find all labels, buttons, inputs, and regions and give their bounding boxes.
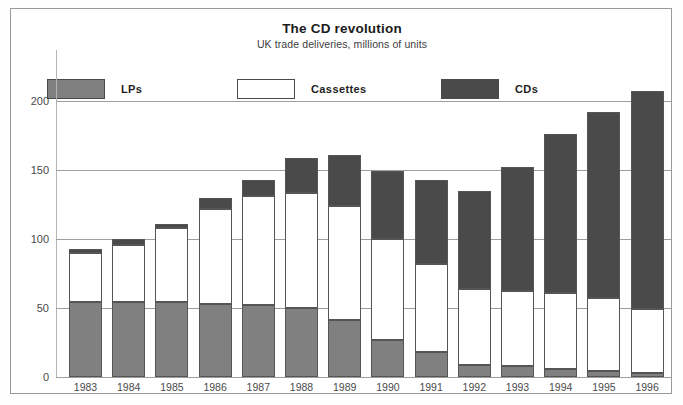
bar-1983[interactable] — [69, 249, 102, 377]
bar-segment-lps-1996[interactable] — [631, 373, 664, 377]
bar-segment-cds-1987[interactable] — [242, 180, 275, 197]
bar-segment-cds-1985[interactable] — [155, 224, 188, 228]
bar-segment-cds-1995[interactable] — [587, 112, 620, 298]
x-tick-label-1995: 1995 — [582, 381, 625, 393]
gridline-150 — [56, 170, 671, 171]
bar-segment-cds-1992[interactable] — [458, 191, 491, 289]
chart-subtitle: UK trade deliveries, millions of units — [11, 38, 673, 50]
y-tick-label-150: 150 — [31, 164, 49, 176]
bar-segment-cds-1996[interactable] — [631, 91, 664, 309]
bar-segment-cds-1986[interactable] — [199, 198, 232, 209]
bar-segment-lps-1990[interactable] — [371, 340, 404, 377]
x-tick-label-1989: 1989 — [323, 381, 366, 393]
bar-1990[interactable] — [371, 171, 404, 377]
x-tick-label-1991: 1991 — [410, 381, 453, 393]
bar-segment-cds-1990[interactable] — [371, 171, 404, 239]
bar-segment-lps-1987[interactable] — [242, 305, 275, 377]
x-tick-label-1984: 1984 — [107, 381, 150, 393]
bar-segment-cassettes-1983[interactable] — [69, 253, 102, 303]
bar-segment-cds-1994[interactable] — [544, 134, 577, 293]
bar-segment-cassettes-1985[interactable] — [155, 228, 188, 303]
bar-1984[interactable] — [112, 239, 145, 377]
chart-frame: The CD revolution UK trade deliveries, m… — [10, 8, 672, 394]
bar-segment-cassettes-1993[interactable] — [501, 291, 534, 366]
x-tick-label-1994: 1994 — [539, 381, 582, 393]
bar-segment-cassettes-1996[interactable] — [631, 309, 664, 372]
bar-segment-lps-1988[interactable] — [285, 308, 318, 377]
bar-1993[interactable] — [501, 167, 534, 377]
bar-segment-cds-1984[interactable] — [112, 239, 145, 245]
bar-segment-cassettes-1990[interactable] — [371, 239, 404, 340]
y-axis-spine — [56, 50, 57, 377]
bar-1987[interactable] — [242, 180, 275, 377]
x-tick-label-1992: 1992 — [453, 381, 496, 393]
bar-segment-cassettes-1991[interactable] — [415, 264, 448, 352]
chart-page: The CD revolution UK trade deliveries, m… — [0, 0, 683, 405]
bar-segment-cassettes-1995[interactable] — [587, 298, 620, 371]
bar-segment-lps-1986[interactable] — [199, 304, 232, 377]
bar-1988[interactable] — [285, 158, 318, 377]
bar-segment-cassettes-1988[interactable] — [285, 193, 318, 308]
x-tick-label-1996: 1996 — [626, 381, 669, 393]
bar-segment-lps-1985[interactable] — [155, 302, 188, 377]
x-tick-label-1987: 1987 — [237, 381, 280, 393]
bar-segment-cassettes-1986[interactable] — [199, 209, 232, 304]
x-tick-label-1988: 1988 — [280, 381, 323, 393]
x-tick-label-1990: 1990 — [366, 381, 409, 393]
y-tick-label-100: 100 — [31, 233, 49, 245]
bar-1991[interactable] — [415, 180, 448, 377]
bar-segment-lps-1995[interactable] — [587, 371, 620, 377]
bar-segment-cassettes-1984[interactable] — [112, 245, 145, 303]
x-tick-label-1993: 1993 — [496, 381, 539, 393]
gridline-100 — [56, 239, 671, 240]
x-tick-label-1986: 1986 — [194, 381, 237, 393]
bar-segment-lps-1994[interactable] — [544, 369, 577, 377]
bar-segment-lps-1992[interactable] — [458, 365, 491, 377]
gridline-50 — [56, 308, 671, 309]
bar-segment-cds-1988[interactable] — [285, 158, 318, 194]
gridline-200 — [56, 101, 671, 102]
bar-segment-cassettes-1989[interactable] — [328, 206, 361, 321]
bar-1992[interactable] — [458, 191, 491, 377]
bar-1989[interactable] — [328, 155, 361, 377]
gridline-0 — [56, 377, 671, 378]
page-title: The CD revolution — [11, 21, 673, 36]
bar-segment-lps-1989[interactable] — [328, 320, 361, 377]
x-tick-label-1985: 1985 — [150, 381, 193, 393]
plot-area: 050100150200 — [56, 50, 671, 377]
x-tick-label-1983: 1983 — [64, 381, 107, 393]
bar-segment-cassettes-1994[interactable] — [544, 293, 577, 369]
bar-segment-lps-1993[interactable] — [501, 366, 534, 377]
bar-segment-cds-1993[interactable] — [501, 167, 534, 291]
x-axis-labels: 1983198419851986198719881989199019911992… — [56, 381, 671, 399]
bar-1986[interactable] — [199, 198, 232, 377]
title-block: The CD revolution UK trade deliveries, m… — [11, 21, 673, 50]
bar-segment-lps-1991[interactable] — [415, 352, 448, 377]
bar-segment-cassettes-1987[interactable] — [242, 196, 275, 305]
bar-1994[interactable] — [544, 134, 577, 377]
bar-segment-cassettes-1992[interactable] — [458, 289, 491, 365]
y-tick-label-200: 200 — [31, 95, 49, 107]
bar-1985[interactable] — [155, 224, 188, 377]
bar-segment-cds-1989[interactable] — [328, 155, 361, 206]
bar-1996[interactable] — [631, 91, 664, 377]
bar-1995[interactable] — [587, 112, 620, 377]
bar-segment-cds-1983[interactable] — [69, 249, 102, 253]
bar-segment-cds-1991[interactable] — [415, 180, 448, 264]
bar-segment-lps-1984[interactable] — [112, 302, 145, 377]
y-tick-label-50: 50 — [37, 302, 49, 314]
y-tick-label-0: 0 — [43, 371, 49, 383]
bar-segment-lps-1983[interactable] — [69, 302, 102, 377]
